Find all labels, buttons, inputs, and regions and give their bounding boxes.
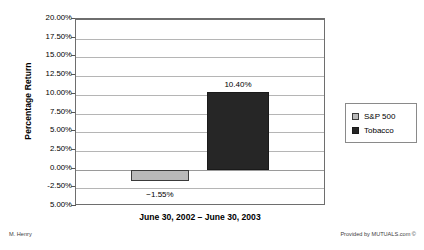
y-tick-label: 7.50% xyxy=(24,108,72,116)
bar-chart-figure: Percentage Return 20.00%17.50%15.00%12.5… xyxy=(0,0,424,250)
y-tick-label: 5.00% xyxy=(24,201,72,209)
legend-swatch-icon xyxy=(352,113,359,120)
y-tick-label: 12.50% xyxy=(24,70,72,78)
y-tick-label: 10.00% xyxy=(24,89,72,97)
footer-attribution: Provided by MUTUALS.com © xyxy=(340,231,416,238)
y-tick-label: -2.50% xyxy=(24,182,72,190)
legend-label: S&P 500 xyxy=(364,112,395,121)
legend-item-tobacco: Tobacco xyxy=(352,123,410,137)
plot-area: −1.55%10.40% xyxy=(75,18,325,205)
bar-value-label: −1.55% xyxy=(119,190,201,199)
y-axis-tick-labels: 20.00%17.50%15.00%12.50%10.00%7.50%5.00%… xyxy=(24,18,72,205)
y-tick-label: 2.50% xyxy=(24,145,72,153)
y-tick-label: 15.00% xyxy=(24,51,72,59)
footer-author: M. Henry xyxy=(9,231,32,238)
bar-tobacco xyxy=(207,92,269,170)
legend-item-sp500: S&P 500 xyxy=(352,109,410,123)
bar-value-label: 10.40% xyxy=(195,80,281,89)
y-tick-label: 5.00% xyxy=(24,126,72,134)
bars-layer: −1.55%10.40% xyxy=(76,20,324,204)
legend-swatch-icon xyxy=(352,127,359,134)
y-tick-label: 17.50% xyxy=(24,33,72,41)
x-axis-title: June 30, 2002 – June 30, 2003 xyxy=(75,212,325,222)
y-tick-label: 20.00% xyxy=(24,14,72,22)
y-tick-mark xyxy=(71,205,76,206)
chart-legend: S&P 500Tobacco xyxy=(345,103,417,143)
y-tick-label: 0.00% xyxy=(24,164,72,172)
bar-sp500 xyxy=(131,170,189,182)
legend-label: Tobacco xyxy=(364,126,394,135)
